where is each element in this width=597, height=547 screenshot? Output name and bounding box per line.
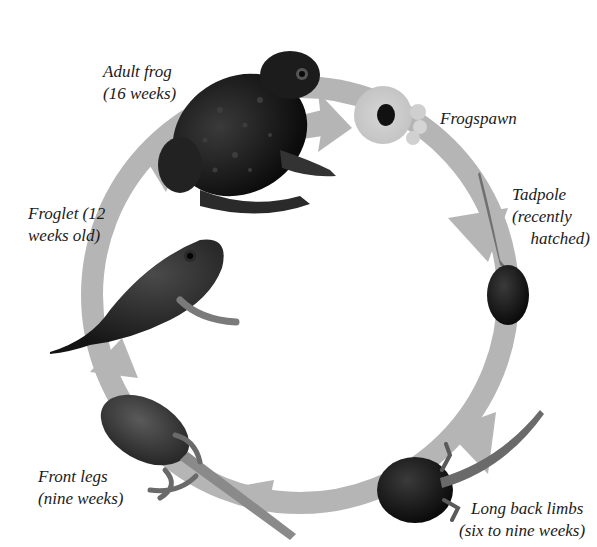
label-frogspawn: Frogspawn <box>440 108 517 130</box>
label-long-back-limbs-line1: Long back limbs <box>471 498 585 520</box>
label-tadpole-line3: hatched) <box>512 228 590 250</box>
label-front-legs-line2: (nine weeks) <box>38 488 123 510</box>
label-adult-frog: Adult frog (16 weeks) <box>103 61 176 105</box>
label-long-back-limbs-line2: (six to nine weeks) <box>459 520 585 542</box>
label-adult-frog-line2: (16 weeks) <box>103 83 176 105</box>
label-tadpole: Tadpole (recently hatched) <box>512 184 590 250</box>
label-front-legs-line1: Front legs <box>38 466 123 488</box>
label-tadpole-line2: (recently <box>512 206 590 228</box>
label-froglet-line1: Froglet (12 <box>28 203 105 225</box>
label-frogspawn-line1: Frogspawn <box>440 108 517 130</box>
front-legs-tadpole-image <box>88 380 296 540</box>
frogspawn-image <box>354 86 427 145</box>
label-froglet-line2: weeks old) <box>28 225 105 247</box>
label-froglet: Froglet (12 weeks old) <box>28 203 105 247</box>
frog-life-cycle-diagram <box>0 0 597 547</box>
label-tadpole-line1: Tadpole <box>512 184 590 206</box>
label-front-legs: Front legs (nine weeks) <box>38 466 123 510</box>
label-adult-frog-line1: Adult frog <box>103 61 176 83</box>
froglet-image <box>50 240 236 354</box>
label-long-back-limbs: Long back limbs (six to nine weeks) <box>471 498 585 542</box>
